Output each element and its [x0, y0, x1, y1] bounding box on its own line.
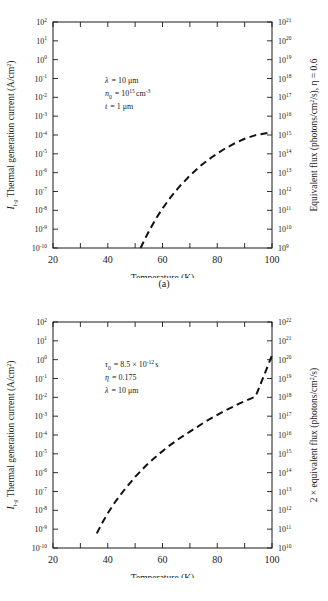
- y-axis-left-tick-label: 10-6: [35, 167, 48, 177]
- y-axis-right-tick-label: 1012: [278, 186, 292, 196]
- y-axis-right-tick-label: 1016: [278, 430, 292, 440]
- y-axis-right-tick-label: 1017: [278, 92, 292, 102]
- y-axis-right-tick-label: 1011: [278, 205, 291, 215]
- y-axis-left-tick-label: 10-5: [35, 148, 48, 158]
- x-axis-tick-label: 40: [103, 254, 113, 265]
- y-axis-left-tick-label: 100: [36, 54, 47, 64]
- y-axis-left-tick-label: 102: [36, 17, 47, 27]
- y-axis-left-tick-label: 10-8: [35, 205, 48, 215]
- y-axis-left-tick-label: 10-5: [35, 448, 48, 458]
- y-axis-right-tick-label: 1018: [278, 392, 292, 402]
- y-axis-right-tick-label: 1017: [278, 411, 292, 421]
- y-axis-right-tick-label: 1018: [278, 73, 292, 83]
- y-axis-right-tick-label: 1019: [278, 373, 292, 383]
- y-axis-left-tick-label: 10-9: [35, 224, 48, 234]
- data-curve: [141, 132, 272, 248]
- y-axis-right-tick-label: 1014: [278, 467, 292, 477]
- y-axis-left-tick-label: 101: [36, 35, 47, 45]
- y-axis-right-tick-label: 1014: [278, 148, 292, 158]
- plot-frame: [53, 322, 272, 548]
- figure-panel-a: 20406080100Temperature (K)10210110010-11…: [0, 0, 328, 300]
- y-axis-right-tick-label: 109: [278, 243, 289, 253]
- x-axis-tick-label: 40: [103, 554, 113, 565]
- x-axis-title: Temperature (K): [131, 573, 194, 578]
- y-axis-right-tick-label: 1021: [278, 335, 292, 345]
- y-axis-left-tick-label: 10-6: [35, 467, 48, 477]
- plot-annotation: λ= 10 μm: [104, 386, 139, 395]
- x-axis-tick-label: 60: [158, 254, 168, 265]
- x-axis-tick-label: 100: [265, 554, 280, 565]
- y-axis-left-tick-label: 10-7: [35, 186, 48, 196]
- y-axis-left-tick-label: 10-1: [35, 373, 48, 383]
- y-axis-left-tick-label: 10-1: [35, 73, 48, 83]
- y-axis-left-tick-label: 10-3: [35, 111, 48, 121]
- y-axis-left-tick-label: 10-3: [35, 411, 48, 421]
- y-axis-left-title: It-g Thermal generation current (A/cm2): [6, 361, 18, 511]
- panel-a-caption: (a): [0, 278, 328, 289]
- y-axis-left-tick-label: 102: [36, 317, 47, 327]
- plot-frame: [53, 22, 272, 248]
- y-axis-right-tick-label: 1020: [278, 354, 292, 364]
- y-axis-right-tick-label: 1016: [278, 111, 292, 121]
- y-axis-right-tick-label: 1015: [278, 130, 292, 140]
- y-axis-right-tick-label: 1010: [278, 224, 292, 234]
- plot-annotation: n0= 1015cm-3: [105, 88, 151, 100]
- x-axis-tick-label: 60: [158, 554, 168, 565]
- y-axis-left-tick-label: 10-8: [35, 505, 48, 515]
- y-axis-left-tick-label: 10-10: [32, 543, 47, 553]
- y-axis-left-tick-label: 10-4: [35, 130, 48, 140]
- y-axis-right-tick-label: 1020: [278, 35, 292, 45]
- y-axis-right-tick-label: 1013: [278, 486, 292, 496]
- plot-b: 20406080100Temperature (K)10210110010-11…: [0, 300, 328, 578]
- y-axis-left-tick-label: 10-2: [35, 392, 48, 402]
- y-axis-right-tick-label: 1011: [278, 524, 291, 534]
- x-axis-tick-label: 100: [265, 254, 280, 265]
- y-axis-right-tick-label: 1013: [278, 167, 292, 177]
- plot-annotation: t= 1 μm: [105, 102, 134, 111]
- y-axis-right-tick-label: 1021: [278, 17, 292, 27]
- x-axis-tick-label: 20: [48, 254, 58, 265]
- plot-annotation: η= 0.175: [105, 373, 136, 382]
- y-axis-left-tick-label: 10-7: [35, 486, 48, 496]
- y-axis-left-tick-label: 10-10: [32, 243, 47, 253]
- y-axis-right-tick-label: 1019: [278, 54, 292, 64]
- plot-a: 20406080100Temperature (K)10210110010-11…: [0, 0, 328, 278]
- data-curve: [97, 355, 272, 533]
- y-axis-right-title: Equivalent flux (photons/cm2/s), η = 0.6: [309, 58, 320, 211]
- figure-panel-b: 20406080100Temperature (K)10210110010-11…: [0, 300, 328, 601]
- y-axis-right-tick-label: 1015: [278, 448, 292, 458]
- y-axis-left-tick-label: 101: [36, 335, 47, 345]
- y-axis-right-tick-label: 1012: [278, 505, 292, 515]
- y-axis-left-title: It-g Thermal generation current (A/cm2): [6, 61, 18, 211]
- y-axis-left-tick-label: 10-2: [35, 92, 48, 102]
- y-axis-right-title: 2 × equivalent flux (photons/cm2/s): [309, 368, 320, 502]
- y-axis-right-tick-label: 1010: [278, 543, 292, 553]
- x-axis-tick-label: 20: [48, 554, 58, 565]
- y-axis-left-tick-label: 10-9: [35, 524, 48, 534]
- y-axis-left-tick-label: 10-4: [35, 430, 48, 440]
- y-axis-right-tick-label: 1022: [278, 317, 292, 327]
- x-axis-tick-label: 80: [212, 254, 222, 265]
- plot-annotation: λ= 10 μm: [104, 76, 139, 85]
- x-axis-tick-label: 80: [212, 554, 222, 565]
- y-axis-left-tick-label: 100: [36, 354, 47, 364]
- plot-annotation: τ0= 8.5 × 10-12s: [105, 359, 158, 371]
